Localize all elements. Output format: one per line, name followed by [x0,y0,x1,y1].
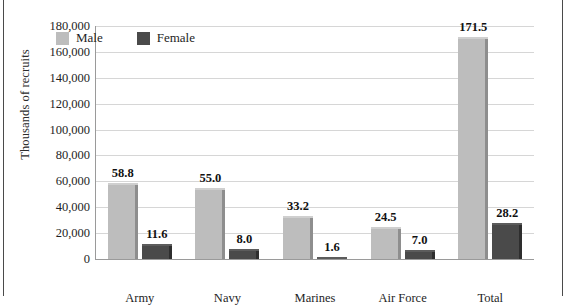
bar-value-label: 8.0 [237,232,253,247]
x-tick-label-total: Total [477,291,503,306]
bar-edge [310,218,313,259]
bar-edge [169,246,172,259]
bar-value-label: 7.0 [412,233,428,248]
bar-male-total[interactable] [458,37,488,259]
bar-group: 55.08.0 [195,26,259,259]
bar-cap [283,216,313,218]
bar-edge [432,252,435,259]
legend-item-male[interactable]: Male [56,30,103,46]
x-tick-label-marines: Marines [295,291,336,306]
y-tick-label: 0 [84,252,90,267]
bar-male-air-force[interactable] [371,227,401,259]
bar-body [492,223,519,260]
bar-edge [485,39,488,259]
bar-cap [108,183,138,185]
bar-group: 33.21.6 [283,26,347,259]
bar-body [371,227,398,259]
bar-body [195,188,222,259]
bar-edge [519,225,522,260]
bar-female-navy[interactable] [229,249,259,259]
bar-female-marines[interactable] [317,257,347,259]
y-tick-label: 20,000 [56,226,90,241]
bar-body [458,37,485,259]
bar-female-total[interactable] [492,223,522,260]
chart-legend: MaleFemale [56,30,195,46]
bar-cap [405,250,435,252]
plot-area: 180,000160,000140,000120,000100,00080,00… [95,26,534,260]
bar-body [283,216,310,259]
y-tick-label: 140,000 [49,70,90,85]
bar-value-label: 58.8 [112,166,134,181]
bar-group: 58.811.6 [108,26,172,259]
bar-edge [222,190,225,259]
bar-cap [317,257,347,259]
bar-value-label: 171.5 [459,20,487,35]
bar-male-army[interactable] [108,183,138,259]
legend-swatch-icon [56,32,69,45]
y-tick-label: 100,000 [49,122,90,137]
bar-male-marines[interactable] [283,216,313,259]
bar-group: 24.57.0 [371,26,435,259]
bar-cap [195,188,225,190]
bar-value-label: 11.6 [146,227,167,242]
figure-caption [100,0,460,5]
legend-label: Female [157,30,195,46]
bar-cap [371,227,401,229]
bar-value-label: 55.0 [199,171,221,186]
legend-item-female[interactable]: Female [137,30,195,46]
bar-cap [492,223,522,225]
bar-value-label: 1.6 [324,240,340,255]
x-tick-label-army: Army [125,291,154,306]
bar-cap [142,244,172,246]
bar-edge [398,229,401,259]
legend-label: Male [76,30,103,46]
y-tick-label: 80,000 [56,148,90,163]
y-tick-label: 160,000 [49,44,90,59]
bar-female-army[interactable] [142,244,172,259]
legend-swatch-icon [137,32,150,45]
bar-value-label: 24.5 [375,210,397,225]
y-tick-label: 40,000 [56,200,90,215]
bar-male-navy[interactable] [195,188,225,259]
bar-cap [458,37,488,39]
bar-edge [135,185,138,259]
bar-cap [229,249,259,251]
y-tick-label: 120,000 [49,96,90,111]
bar-body [142,244,169,259]
y-tick-label: 60,000 [56,174,90,189]
bar-value-label: 28.2 [496,206,518,221]
x-tick-label-air-force: Air Force [378,291,426,306]
bar-group: 171.528.2 [458,26,522,259]
bar-value-label: 33.2 [287,199,309,214]
bar-edge [256,251,259,259]
bar-female-air-force[interactable] [405,250,435,259]
y-axis-title: Thousands of recruits [18,10,33,200]
x-tick-label-navy: Navy [214,291,241,306]
bar-body [108,183,135,259]
